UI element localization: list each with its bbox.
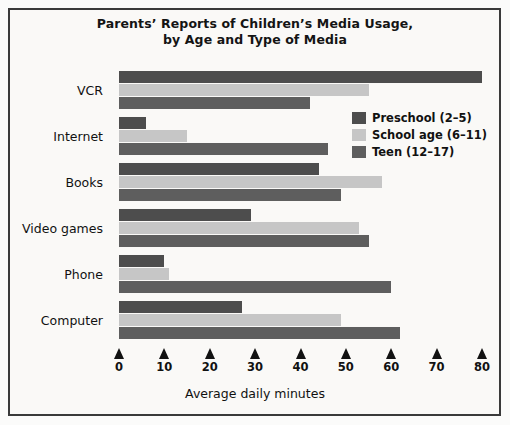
x-axis-tick-label: 50 <box>331 360 361 374</box>
tick-marker-icon <box>114 348 124 359</box>
x-axis-tick: 10 <box>149 348 179 374</box>
x-axis: 01020304050607080 <box>0 348 510 388</box>
bar-group: VCR <box>0 70 510 115</box>
bar <box>119 268 169 280</box>
legend-item: Teen (12–17) <box>352 144 487 159</box>
tick-marker-icon <box>205 348 215 359</box>
x-axis-tick: 50 <box>331 348 361 374</box>
bar-group: Computer <box>0 300 510 345</box>
x-axis-tick-label: 20 <box>195 360 225 374</box>
legend-swatch-icon <box>352 112 366 124</box>
bar-group: Books <box>0 162 510 207</box>
legend-label: Preschool (2–5) <box>372 111 472 125</box>
bar <box>119 235 369 247</box>
bar <box>119 117 146 129</box>
x-axis-tick: 60 <box>376 348 406 374</box>
bar <box>119 301 242 313</box>
x-axis-tick: 20 <box>195 348 225 374</box>
legend-item: School age (6–11) <box>352 127 487 142</box>
legend-item: Preschool (2–5) <box>352 110 487 125</box>
bar <box>119 255 164 267</box>
category-label-video-games: Video games <box>0 221 103 236</box>
legend-label: School age (6–11) <box>372 128 487 142</box>
chart-legend: Preschool (2–5)School age (6–11)Teen (12… <box>352 110 487 161</box>
x-axis-tick-label: 10 <box>149 360 179 374</box>
tick-marker-icon <box>477 348 487 359</box>
bar <box>119 84 369 96</box>
tick-marker-icon <box>432 348 442 359</box>
bar <box>119 189 341 201</box>
bar <box>119 314 341 326</box>
tick-marker-icon <box>341 348 351 359</box>
bar-group: Phone <box>0 254 510 299</box>
x-axis-tick: 40 <box>286 348 316 374</box>
x-axis-tick: 0 <box>104 348 134 374</box>
bar <box>119 130 187 142</box>
category-label-computer: Computer <box>0 313 103 328</box>
x-axis-tick: 80 <box>467 348 497 374</box>
bar <box>119 97 310 109</box>
chart-figure: Parents’ Reports of Children’s Media Usa… <box>0 0 510 425</box>
x-axis-tick-label: 60 <box>376 360 406 374</box>
bar <box>119 281 391 293</box>
x-axis-label: Average daily minutes <box>0 386 510 401</box>
tick-marker-icon <box>296 348 306 359</box>
x-axis-tick-label: 80 <box>467 360 497 374</box>
x-axis-tick-label: 0 <box>104 360 134 374</box>
bar <box>119 327 400 339</box>
legend-swatch-icon <box>352 129 366 141</box>
x-axis-tick-label: 30 <box>240 360 270 374</box>
bar <box>119 209 251 221</box>
x-axis-tick: 30 <box>240 348 270 374</box>
bar <box>119 176 382 188</box>
x-axis-tick-label: 40 <box>286 360 316 374</box>
legend-swatch-icon <box>352 146 366 158</box>
bar <box>119 222 359 234</box>
bar <box>119 71 482 83</box>
category-label-vcr: VCR <box>0 83 103 98</box>
bar <box>119 143 328 155</box>
tick-marker-icon <box>250 348 260 359</box>
bar-group: Video games <box>0 208 510 253</box>
legend-label: Teen (12–17) <box>372 145 454 159</box>
tick-marker-icon <box>159 348 169 359</box>
x-axis-tick-label: 70 <box>422 360 452 374</box>
category-label-internet: Internet <box>0 129 103 144</box>
category-label-phone: Phone <box>0 267 103 282</box>
x-axis-tick: 70 <box>422 348 452 374</box>
tick-marker-icon <box>386 348 396 359</box>
bar <box>119 163 319 175</box>
category-label-books: Books <box>0 175 103 190</box>
